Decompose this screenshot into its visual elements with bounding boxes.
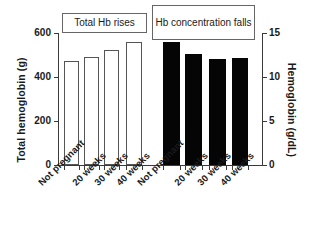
bar-hb-conc-20-weeks bbox=[185, 54, 202, 165]
x-tick-12 bbox=[202, 166, 203, 170]
left-axis-tick-600 bbox=[54, 33, 58, 34]
left-axis-tick-400 bbox=[54, 77, 58, 78]
right-axis-tick-5 bbox=[263, 121, 267, 122]
right-axis-spine bbox=[262, 33, 263, 166]
right-axis-label-10: 10 bbox=[269, 72, 280, 82]
annotation-total-hb-rises: Total Hb rises bbox=[62, 13, 147, 33]
hemoglobin-bar-chart: Total hemoglobin (g) Hemoglobin (g/dL) 6… bbox=[0, 0, 313, 249]
x-tick-16 bbox=[248, 166, 249, 170]
right-axis-title: Hemoglobin (g/dL) bbox=[286, 40, 298, 180]
left-axis-label-400: 400 bbox=[34, 72, 51, 82]
right-axis-label-0: 0 bbox=[269, 160, 275, 170]
bar-hb-conc-30-weeks bbox=[209, 59, 226, 165]
left-axis-title: Total hemoglobin (g) bbox=[15, 40, 27, 180]
bar-total-hb-20-weeks bbox=[84, 57, 99, 165]
right-axis-tick-15 bbox=[263, 33, 267, 34]
right-axis-label-15: 15 bbox=[269, 28, 280, 38]
left-axis-label-600: 600 bbox=[34, 28, 51, 38]
right-axis-label-5: 5 bbox=[269, 116, 275, 126]
bar-total-hb-30-weeks bbox=[104, 50, 119, 165]
left-axis-label-200: 200 bbox=[34, 116, 51, 126]
bar-total-hb-40-weeks bbox=[126, 42, 142, 165]
left-axis-tick-200 bbox=[54, 121, 58, 122]
right-axis-tick-10 bbox=[263, 77, 267, 78]
left-axis-spine bbox=[58, 33, 59, 166]
x-tick-4 bbox=[99, 166, 100, 170]
bar-hb-conc-40-weeks bbox=[232, 58, 248, 165]
right-axis-tick-0 bbox=[263, 165, 267, 166]
annotation-hb-concentration-falls: Hb concentration falls bbox=[152, 5, 255, 40]
